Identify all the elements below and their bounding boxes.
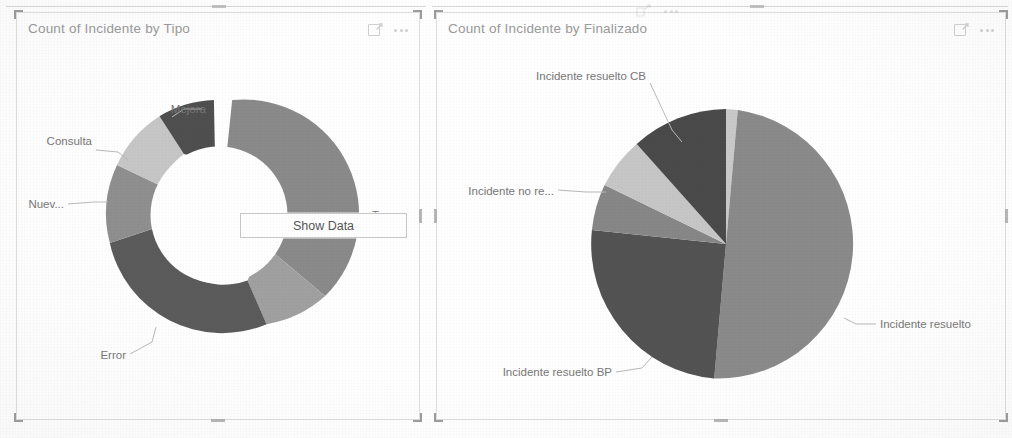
selection-handle-top-right[interactable] — [413, 10, 422, 19]
selection-handle-bottom-right[interactable] — [999, 413, 1008, 422]
selection-handle-bottom-right[interactable] — [413, 413, 422, 422]
slice-label-resuelto: Incidente resuelto — [880, 318, 971, 330]
selection-handle-left-center[interactable] — [434, 209, 437, 223]
pie-chart-finalizado[interactable]: Incidente resuelto CB Incidente no re...… — [436, 12, 1006, 420]
ghost-resize-handle-top-right[interactable] — [750, 5, 764, 8]
selection-handle-bottom-center[interactable] — [211, 419, 225, 422]
show-data-label: Show Data — [293, 219, 354, 233]
canvas-top-divider — [432, 6, 1008, 7]
selection-handle-bottom-center[interactable] — [714, 419, 728, 422]
selection-handle-top-right[interactable] — [999, 10, 1008, 19]
pie-slices[interactable] — [591, 109, 853, 379]
slice-label-bp: Incidente resuelto BP — [503, 366, 613, 378]
selection-handle-bottom-left[interactable] — [14, 413, 23, 422]
selection-handle-right-center[interactable] — [419, 209, 422, 223]
slice-label-no-re: Incidente no re... — [468, 185, 554, 197]
slice-label-nuevo: Nuev... — [28, 198, 64, 210]
pie-slice-incidente-resuelto[interactable] — [714, 110, 853, 379]
leader-error — [130, 327, 156, 354]
ghost-more-options-icon[interactable] — [664, 10, 678, 13]
ghost-focus-icon — [636, 4, 652, 18]
selection-handle-bottom-left[interactable] — [434, 413, 443, 422]
ghost-resize-handle-top[interactable] — [212, 5, 226, 8]
slice-label-mejora: Mejora — [171, 103, 207, 115]
leader-resuelto — [844, 318, 876, 324]
slice-label-consulta: Consulta — [47, 135, 93, 147]
leader-nuevo — [68, 202, 108, 204]
selection-handle-top-left[interactable] — [14, 10, 23, 19]
slice-label-error: Error — [100, 349, 126, 361]
leader-no-re — [558, 190, 606, 192]
ghost-focus-glyph — [636, 4, 652, 18]
pie-slice-incidente-resuelto-bp[interactable] — [591, 230, 726, 379]
slice-label-cb: Incidente resuelto CB — [536, 70, 646, 82]
visual-panel-finalizado[interactable]: Count of Incidente by Finalizado — [436, 12, 1006, 420]
show-data-tooltip[interactable]: Show Data — [240, 213, 407, 238]
leader-bp — [616, 357, 652, 372]
selection-handle-right-center[interactable] — [1005, 209, 1008, 223]
selection-handle-top-left[interactable] — [434, 10, 443, 19]
